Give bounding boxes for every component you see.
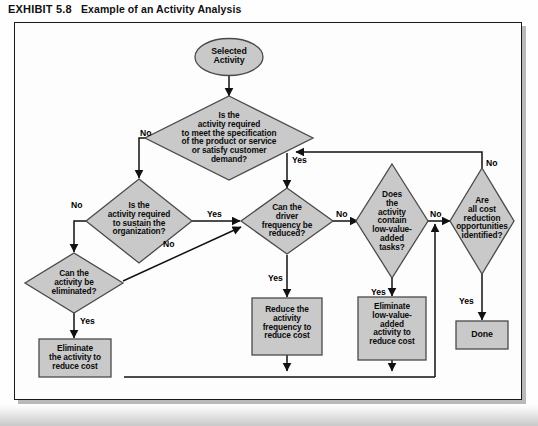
- edge-label-d6-yes: Yes: [459, 296, 474, 306]
- node-decision-all-opportunities: [450, 168, 514, 274]
- node-process-eliminate-activity: [39, 339, 111, 377]
- node-decision-driver-frequency: [241, 188, 333, 254]
- edge-label-d1-yes: Yes: [292, 155, 307, 165]
- node-process-reduce-frequency: [252, 298, 322, 355]
- edge-label-d2-yes: Yes: [207, 209, 222, 219]
- node-decision-low-value-tasks: [356, 164, 428, 278]
- flow-shapes: [25, 39, 514, 378]
- edge-label-d1-no: No: [140, 128, 151, 138]
- edge-label-d3-yes: Yes: [80, 316, 95, 326]
- edge-label-d3-no-diagonal: No: [163, 239, 174, 249]
- edge-d2-no-d3: [74, 221, 88, 252]
- edge-d6-no-d1: [296, 152, 482, 168]
- flowchart-canvas: [0, 0, 538, 426]
- edge-label-d2-no-left: No: [71, 200, 82, 210]
- edge-label-d6-no: No: [486, 158, 497, 168]
- edge-label-d4-yes: Yes: [268, 273, 283, 283]
- node-decision-can-eliminate: [25, 253, 123, 313]
- node-process-eliminate-lowvalue: [358, 297, 426, 360]
- exhibit-page: EXHIBIT 5.8Example of an Activity Analys…: [0, 0, 538, 426]
- node-selected-activity: [195, 39, 263, 76]
- node-decision-sustain-org: [86, 179, 192, 263]
- edge-label-d5-yes: Yes: [371, 287, 386, 297]
- node-decision-required-spec: [145, 96, 313, 180]
- node-terminal-done: [456, 321, 508, 349]
- edge-label-d4-no: No: [336, 209, 347, 219]
- edge-label-d5-no: No: [430, 209, 441, 219]
